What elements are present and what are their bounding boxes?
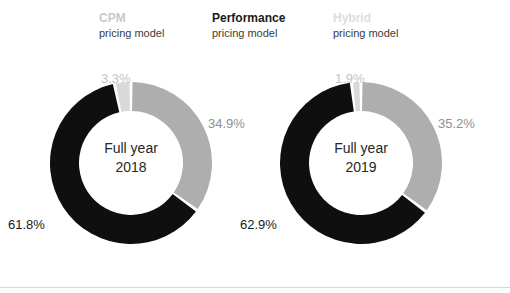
donut-label-hybrid-2019: 1.9% xyxy=(335,71,365,87)
donut-center-label-2019: Full year 2019 xyxy=(280,139,442,177)
donut-center-label-2018: Full year 2018 xyxy=(50,139,212,177)
donut-label-performance-2019: 62.9% xyxy=(240,217,277,233)
donut-center-line2-2018: 2018 xyxy=(50,158,212,177)
donut-chart-full-year-2019: Full year 2019 1.9% 35.2% 62.9% xyxy=(246,82,476,282)
charts-container: Full year 2018 3.3% 34.9% 61.8% Full yea… xyxy=(0,0,510,293)
footer-divider xyxy=(0,287,510,288)
donut-label-cpm-2019: 35.2% xyxy=(438,116,475,132)
donut-center-line2-2019: 2019 xyxy=(280,158,442,177)
donut-chart-full-year-2018: Full year 2018 3.3% 34.9% 61.8% xyxy=(16,82,246,282)
donut-label-performance-2018: 61.8% xyxy=(8,217,45,233)
donut-center-line1-2018: Full year xyxy=(50,139,212,158)
donut-center-line1-2019: Full year xyxy=(280,139,442,158)
donut-label-hybrid-2018: 3.3% xyxy=(101,71,131,87)
donut-label-cpm-2018: 34.9% xyxy=(208,116,245,132)
